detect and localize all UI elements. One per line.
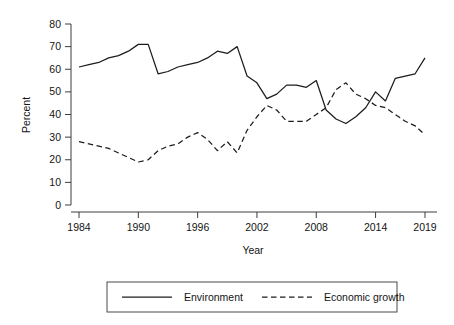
legend-label-economic-growth: Economic growth bbox=[324, 291, 405, 303]
y-tick-label: 20 bbox=[49, 153, 61, 165]
chart-legend: Environment Economic growth bbox=[107, 282, 405, 312]
y-tick-label: 10 bbox=[49, 176, 61, 188]
y-tick-label: 40 bbox=[49, 108, 61, 120]
x-tick-label: 1984 bbox=[67, 221, 91, 233]
chart-figure: 01020304050607080 1984199019962002200820… bbox=[0, 0, 454, 325]
x-tick-label: 2014 bbox=[364, 221, 388, 233]
series-line-environment bbox=[79, 44, 425, 123]
x-tick-label: 2002 bbox=[245, 221, 269, 233]
y-tick-label: 70 bbox=[49, 40, 61, 52]
y-tick-label: 50 bbox=[49, 85, 61, 97]
y-tick-label: 60 bbox=[49, 63, 61, 75]
y-tick-label: 0 bbox=[55, 199, 61, 211]
x-axis-ticks: 1984199019962002200820142019 bbox=[67, 212, 437, 233]
x-tick-label: 2008 bbox=[305, 221, 329, 233]
line-chart: 01020304050607080 1984199019962002200820… bbox=[0, 0, 454, 325]
y-axis-title: Percent bbox=[20, 97, 32, 133]
legend-label-environment: Environment bbox=[184, 291, 243, 303]
x-tick-label: 2019 bbox=[413, 221, 437, 233]
x-axis-title: Year bbox=[242, 244, 264, 256]
y-tick-label: 30 bbox=[49, 131, 61, 143]
x-tick-label: 1990 bbox=[127, 221, 151, 233]
x-tick-label: 1996 bbox=[186, 221, 210, 233]
y-axis-ticks: 01020304050607080 bbox=[49, 18, 71, 211]
y-tick-label: 80 bbox=[49, 18, 61, 30]
